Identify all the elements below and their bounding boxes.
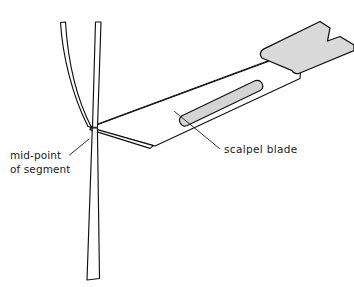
- scalpel-segment-diagram: mid-point of segment scalpel blade: [0, 0, 354, 287]
- midpoint-label-line2: of segment: [10, 163, 71, 175]
- midpoint-label-line1: mid-point: [10, 149, 61, 161]
- figure-canvas: mid-point of segment scalpel blade: [0, 0, 354, 287]
- scalpel-blade-label: scalpel blade: [224, 143, 298, 155]
